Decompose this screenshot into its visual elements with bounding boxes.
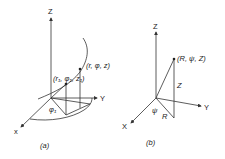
z-axis-label-b: Z — [153, 22, 158, 31]
r1-radial — [51, 84, 66, 98]
height-label: Z — [176, 81, 182, 90]
angle-label-a: φ₁ — [49, 105, 57, 114]
caption-a: (a) — [40, 141, 50, 150]
caption-b: (b) — [146, 138, 156, 147]
y-axis-label-b: Y — [204, 103, 209, 112]
point-b — [173, 58, 176, 61]
radius-label: R — [162, 112, 168, 121]
x-axis-label-b: X — [122, 122, 127, 131]
x-axis-label-a: x — [14, 127, 18, 136]
r-line — [51, 98, 90, 104]
y-axis-b — [156, 98, 201, 106]
cylindrical-coordinates-diagram: Z Y x (r₁, φ₁, z₁) (r, φ, z) φ₁ (a) Z Y … — [0, 0, 225, 159]
point-1 — [65, 83, 68, 86]
angle-label-b: ψ — [152, 106, 158, 115]
z-axis-label-a: Z — [48, 7, 53, 16]
figure-a: Z Y x (r₁, φ₁, z₁) (r, φ, z) φ₁ (a) — [14, 7, 111, 150]
x-axis-a — [21, 98, 51, 127]
y-axis-label-a: Y — [100, 94, 105, 103]
point — [79, 68, 82, 71]
point-label-b: (R, ψ, Z) — [177, 54, 206, 63]
point-1-label: (r₁, φ₁, z₁) — [53, 74, 85, 83]
point-label: (r, φ, z) — [86, 61, 111, 70]
figure-b: Z Y X (R, ψ, Z) Z R ψ (b) — [122, 22, 209, 147]
position-vector — [156, 59, 174, 98]
